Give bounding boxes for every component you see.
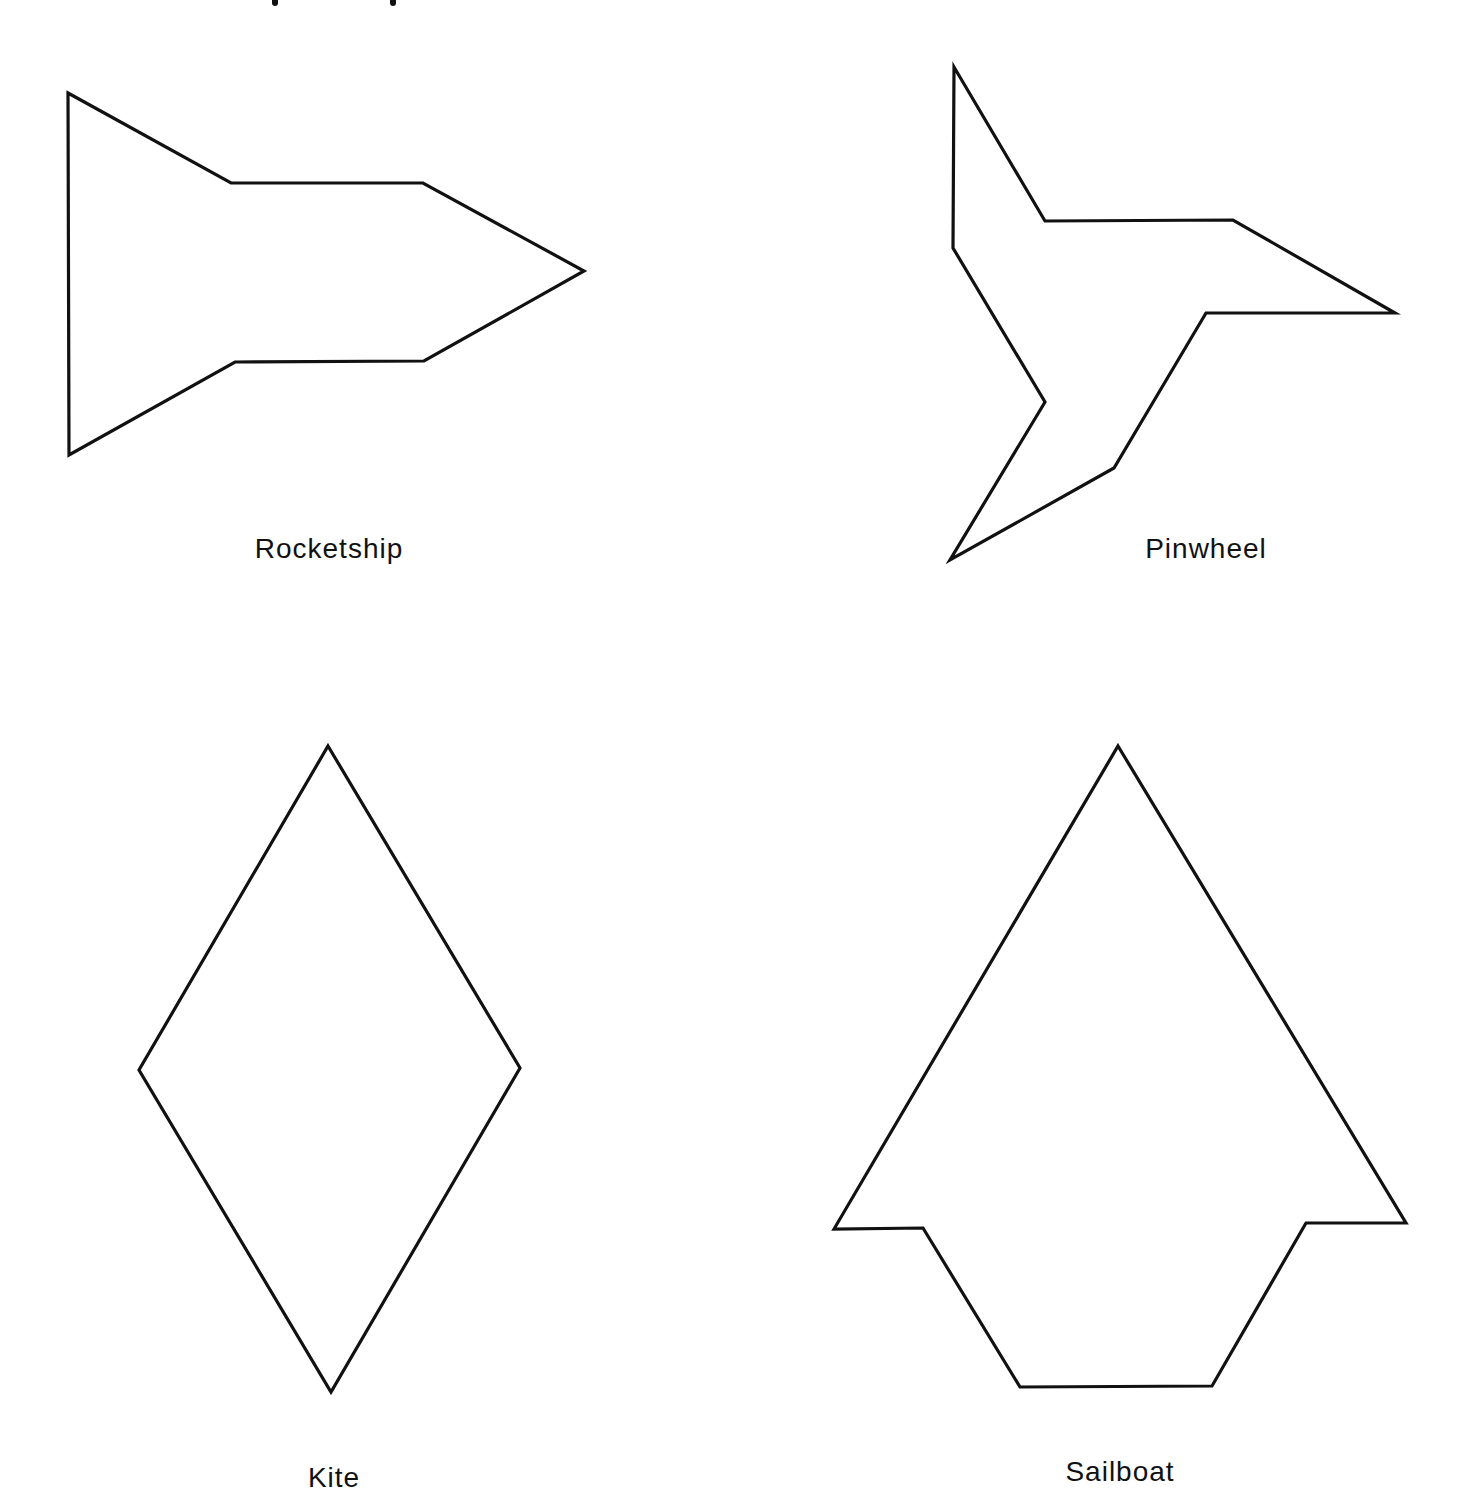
kite-outline	[139, 746, 520, 1392]
pinwheel-label: Pinwheel	[1145, 533, 1267, 565]
rocketship-label: Rocketship	[255, 533, 404, 565]
pinwheel-outline	[950, 67, 1395, 560]
kite-label: Kite	[308, 1462, 360, 1494]
rocketship-outline	[68, 93, 584, 455]
shapes-canvas	[0, 0, 1463, 1512]
sailboat-label: Sailboat	[1065, 1456, 1174, 1488]
sailboat-outline	[834, 746, 1406, 1387]
